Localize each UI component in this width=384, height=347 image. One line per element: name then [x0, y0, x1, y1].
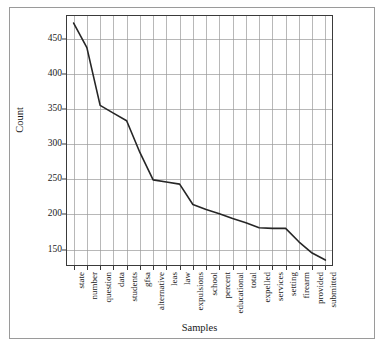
x-axis-tick-label: expelled	[263, 272, 272, 303]
x-axis-tick-mark	[180, 266, 181, 270]
x-axis-tick-label: expulsions	[196, 272, 205, 311]
vertical-gridlines	[75, 16, 326, 265]
y-axis-tick-label: 450	[48, 34, 62, 44]
x-axis-tick-mark	[87, 266, 88, 270]
count-series-line	[74, 23, 326, 260]
x-axis-title: Samples	[66, 322, 333, 333]
x-axis-tick-label: question	[104, 272, 113, 303]
x-axis-tick-mark	[312, 266, 313, 270]
x-axis-tick-mark	[113, 266, 114, 270]
plot-area	[66, 15, 333, 266]
x-axis-tick-mark	[286, 266, 287, 270]
x-axis-tick-label: provided	[316, 272, 325, 304]
x-axis-tick-mark	[246, 266, 247, 270]
x-axis-tick-mark	[325, 266, 326, 270]
y-axis-tick-label: 300	[48, 139, 62, 149]
x-axis-tick-label: state	[77, 272, 86, 289]
x-axis-tick-mark	[299, 266, 300, 270]
x-axis-tick-label: data	[117, 272, 126, 287]
x-axis-tick-label: percent	[223, 272, 232, 298]
x-axis-tick-mark	[233, 266, 234, 270]
x-axis-tick-mark	[166, 266, 167, 270]
y-axis-tick-label: 200	[48, 210, 62, 220]
chart-figure: 150200250300350400450 statenumberquestio…	[0, 0, 384, 347]
horizontal-gridlines	[67, 40, 332, 251]
x-axis-tick-label: number	[90, 272, 99, 300]
x-axis-tick-label: law	[183, 272, 192, 285]
x-axis-tick-label: setting	[289, 272, 298, 296]
x-axis-tick-mark	[219, 266, 220, 270]
y-axis-title: Count	[14, 107, 25, 133]
x-axis-tick-mark	[259, 266, 260, 270]
x-axis-tick-mark	[193, 266, 194, 270]
x-axis-tick-mark	[272, 266, 273, 270]
line-chart-svg	[67, 16, 332, 265]
x-axis-tick-mark	[153, 266, 154, 270]
y-axis-tick-label: 350	[48, 104, 62, 114]
y-axis-tick-label: 250	[48, 174, 62, 184]
x-axis-tick-label: services	[276, 272, 285, 301]
x-axis-tick-label: leas	[170, 272, 179, 286]
x-axis-tick-mark	[100, 266, 101, 270]
x-axis-tick-mark	[74, 266, 75, 270]
x-axis-tick-label: educational	[236, 272, 245, 313]
x-axis-tick-labels: statenumberquestiondatastudentsgfsaalter…	[66, 272, 333, 318]
x-axis-tick-label: firearm	[302, 272, 311, 298]
x-axis-tick-mark	[206, 266, 207, 270]
x-axis-tick-label: total	[249, 272, 258, 288]
x-axis-tick-mark	[127, 266, 128, 270]
x-axis-tick-label: gfsa	[143, 272, 152, 287]
x-axis-tick-label: school	[210, 272, 219, 296]
y-axis-tick-labels: 150200250300350400450	[28, 15, 62, 266]
x-axis-tick-label: students	[130, 272, 139, 302]
y-axis-tick-label: 400	[48, 69, 62, 79]
x-axis-tick-label: submitted	[329, 272, 338, 308]
x-axis-tick-mark	[140, 266, 141, 270]
x-axis-tick-label: alternative	[157, 272, 166, 310]
y-axis-tick-label: 150	[48, 245, 62, 255]
x-axis-tick-marks	[66, 266, 333, 271]
